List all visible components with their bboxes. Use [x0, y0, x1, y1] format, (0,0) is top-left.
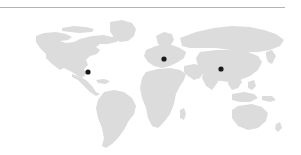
land-papua-new-guinea	[262, 96, 276, 102]
land-india	[202, 70, 220, 90]
land-caribbean	[96, 79, 110, 84]
world-map-graphic	[0, 14, 301, 155]
landmass-layer	[36, 20, 284, 148]
location-marker-europe[interactable]	[161, 56, 166, 61]
land-indonesia	[232, 92, 258, 102]
location-marker-north-america[interactable]	[85, 69, 90, 74]
world-map-figure	[0, 0, 301, 155]
land-japan	[266, 50, 276, 64]
top-horizontal-rule	[0, 7, 285, 8]
land-south-america	[96, 90, 136, 148]
map-stage	[0, 14, 301, 155]
land-australia	[232, 104, 268, 130]
land-new-zealand	[275, 122, 282, 132]
land-philippines	[248, 80, 256, 90]
land-arctic-canada	[62, 26, 94, 33]
land-madagascar	[180, 108, 186, 120]
location-marker-asia[interactable]	[218, 66, 223, 71]
land-russia	[180, 26, 284, 52]
land-africa	[140, 68, 186, 128]
land-central-america	[72, 74, 100, 96]
